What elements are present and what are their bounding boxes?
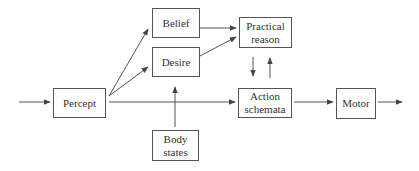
diagram-edges — [0, 0, 419, 171]
node-belief: Belief — [152, 8, 200, 38]
node-body-states-label-line1: Body — [164, 133, 188, 146]
node-motor-label: Motor — [342, 97, 370, 110]
node-belief-label: Belief — [163, 17, 190, 30]
edge-desire-to-practical-reason — [200, 37, 236, 56]
node-percept: Percept — [53, 88, 106, 118]
node-practical-reason-label-line1: Practical — [246, 20, 284, 33]
edge-percept-to-belief — [109, 29, 148, 96]
node-action-schemata-label-line1: Action — [250, 90, 280, 103]
node-desire-label: Desire — [162, 56, 191, 69]
node-action-schemata-label-line2: schemata — [245, 103, 286, 116]
edge-percept-to-desire — [109, 67, 148, 96]
diagram-canvas: Percept Belief Desire Body states Practi… — [0, 0, 419, 171]
node-body-states: Body states — [152, 130, 199, 161]
node-practical-reason: Practical reason — [239, 17, 292, 48]
node-percept-label: Percept — [63, 97, 96, 110]
node-motor: Motor — [336, 88, 376, 119]
node-desire: Desire — [152, 47, 200, 77]
node-body-states-label-line2: states — [163, 146, 187, 159]
node-action-schemata: Action schemata — [238, 88, 292, 118]
node-practical-reason-label-line2: reason — [251, 33, 280, 46]
